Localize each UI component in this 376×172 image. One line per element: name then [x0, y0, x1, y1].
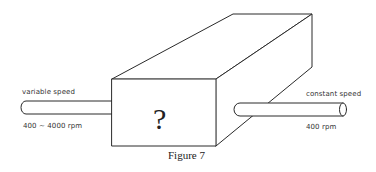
output-shaft-title: constant speed: [306, 90, 361, 98]
figure-7-diagram: ? variable speed 400 ~ 4000 rpm constant…: [0, 0, 376, 172]
input-shaft-speed: 400 ~ 4000 rpm: [23, 122, 82, 130]
input-shaft: [21, 101, 112, 114]
figure-caption: Figure 7: [168, 149, 205, 161]
unknown-mechanism-label: ?: [153, 104, 166, 134]
input-shaft-title: variable speed: [22, 88, 75, 96]
gearbox-drawing: [0, 0, 376, 172]
output-shaft: [234, 103, 347, 116]
output-shaft-speed: 400 rpm: [306, 123, 336, 131]
